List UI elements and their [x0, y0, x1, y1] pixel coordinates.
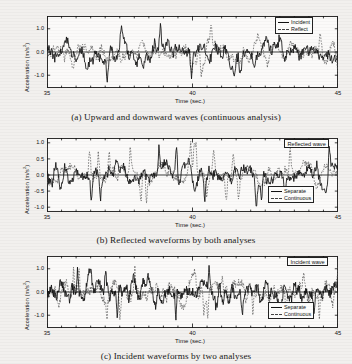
y-axis-tick-label: 0.0 [23, 289, 44, 295]
legend-label: Continuous [284, 195, 311, 202]
x-axis-tick-label: 45 [333, 214, 343, 220]
y-axis-tick-label: 1.0 [23, 25, 44, 31]
legend-entry: Separate [271, 304, 311, 311]
x-axis-tick-label: 35 [42, 330, 52, 336]
y-axis-tick-label: 0.0 [23, 49, 44, 55]
y-axis-tick-label: 1.0 [23, 139, 44, 145]
panel-c-tag: Incident wave [287, 257, 328, 266]
y-axis-tick-label: 1.0 [23, 265, 44, 271]
panel-c-caption: (c) Incident waveforms by two analyses [0, 351, 352, 361]
y-axis-tick-label: -1.0 [23, 312, 44, 318]
y-axis-tick-label: 0.5 [23, 156, 44, 162]
panel-c-x-axis-label: Time (sec.) [130, 338, 250, 344]
y-axis-tick-label: -1.0 [23, 72, 44, 78]
panel-c-legend: Separate Continuous [268, 302, 314, 319]
x-axis-tick-label: 45 [333, 90, 343, 96]
panel-a-x-axis-label: Time (sec.) [130, 98, 250, 104]
legend-label: Reflect [291, 26, 308, 33]
legend-entry: Continuous [271, 195, 311, 202]
legend-entry: Reflect [278, 26, 310, 33]
panel-b-caption: (b) Reflected waveforms by both analyses [0, 235, 352, 245]
panel-a-caption: (a) Upward and downward waves (continuou… [0, 112, 352, 122]
y-axis-tick-label: -0.5 [23, 188, 44, 194]
x-axis-tick-label: 35 [42, 90, 52, 96]
panel-a-legend: Incident Reflect [275, 17, 313, 34]
x-axis-tick-label: 40 [188, 90, 198, 96]
x-axis-tick-label: 35 [42, 214, 52, 220]
legend-label: Separate [284, 304, 306, 311]
panel-b-x-axis-label: Time (sec.) [130, 222, 250, 228]
legend-label: Separate [284, 188, 306, 195]
legend-entry: Separate [271, 188, 311, 195]
legend-label: Continuous [284, 311, 311, 318]
x-axis-tick-label: 45 [333, 330, 343, 336]
legend-entry: Continuous [271, 311, 311, 318]
panel-b: Acceleration (m/s2) Reflected wave Separ… [0, 134, 352, 252]
x-axis-tick-label: 40 [188, 330, 198, 336]
panel-b-tag: Reflected wave [284, 139, 329, 148]
y-axis-tick-label: 0.0 [23, 172, 44, 178]
panel-c: Acceleration (m/s2) Incident wave Separa… [0, 252, 352, 364]
y-axis-tick-label: -1.0 [23, 204, 44, 210]
legend-entry: Incident [278, 19, 310, 26]
panel-a: Acceleration (m/s2) Incident Reflect Tim… [0, 0, 352, 130]
panel-b-legend: Separate Continuous [268, 186, 314, 203]
figure-root: Acceleration (m/s2) Incident Reflect Tim… [0, 0, 352, 364]
legend-label: Incident [291, 19, 310, 26]
x-axis-tick-label: 40 [188, 214, 198, 220]
